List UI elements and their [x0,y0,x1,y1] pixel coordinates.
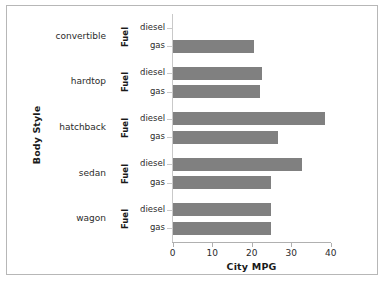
fuel-tick-mark [167,228,172,229]
fuel-tick-label-gas: gas [119,177,165,187]
category-label: wagon [0,213,106,223]
x-tick-label: 40 [316,248,346,258]
bar-sedan-gas [173,176,271,189]
x-tick-label: 0 [158,248,188,258]
fuel-tick-label-gas: gas [119,86,165,96]
x-tick-label: 30 [276,248,306,258]
x-tick-mark [252,243,253,247]
bar-hatchback-gas [173,131,278,144]
category-label: hatchback [0,122,106,132]
category-label: hardtop [0,76,106,86]
category-label: convertible [0,31,106,41]
fuel-tick-mark [167,137,172,138]
bar-wagon-diesel [173,203,271,216]
bar-convertible-gas [173,40,254,53]
fuel-tick-mark [167,164,172,165]
bar-hatchback-diesel [173,112,325,125]
bar-wagon-gas [173,222,271,235]
fuel-tick-label-diesel: diesel [119,158,165,168]
fuel-tick-mark [167,28,172,29]
chart-group-convertible: convertibleFueldieselgas [0,14,385,60]
x-tick-mark [173,243,174,247]
bar-sedan-diesel [173,158,302,171]
fuel-tick-mark [167,210,172,211]
fuel-tick-label-gas: gas [119,40,165,50]
fuel-tick-label-gas: gas [119,131,165,141]
x-axis-title: City MPG [172,261,331,272]
fuel-tick-label-diesel: diesel [119,204,165,214]
fuel-tick-mark [167,73,172,74]
x-tick-mark [291,243,292,247]
chart-group-sedan: sedanFueldieselgas [0,151,385,197]
x-tick-mark [331,243,332,247]
fuel-tick-label-diesel: diesel [119,113,165,123]
x-tick-mark [212,243,213,247]
fuel-tick-label-gas: gas [119,222,165,232]
chart-group-hatchback: hatchbackFueldieselgas [0,105,385,151]
x-tick-label: 10 [197,248,227,258]
bar-hardtop-gas [173,85,260,98]
bar-hardtop-diesel [173,67,262,80]
fuel-tick-mark [167,46,172,47]
fuel-tick-mark [167,92,172,93]
bar-chart-figure: Body Style convertibleFueldieselgashardt… [0,0,385,281]
category-label: sedan [0,168,106,178]
chart-group-wagon: wagonFueldieselgas [0,196,385,242]
fuel-tick-mark [167,119,172,120]
x-tick-label: 20 [237,248,267,258]
fuel-tick-mark [167,183,172,184]
fuel-tick-label-diesel: diesel [119,22,165,32]
chart-group-hardtop: hardtopFueldieselgas [0,60,385,106]
fuel-tick-label-diesel: diesel [119,67,165,77]
